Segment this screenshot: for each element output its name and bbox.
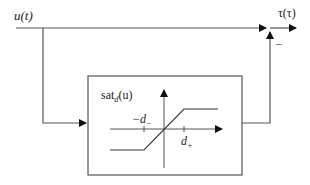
output-label: τ(τ) (278, 7, 296, 19)
block-title-main: sat (101, 88, 114, 102)
neg-threshold-text: −d (132, 112, 146, 126)
branch-line (43, 28, 86, 123)
block-diagram (0, 0, 310, 185)
block-title: satd(u) (101, 89, 133, 105)
sum-sign: – (276, 38, 282, 49)
pos-threshold-sub: + (187, 141, 193, 150)
neg-threshold-label: −d− (132, 113, 152, 129)
feedback-line (242, 32, 270, 123)
input-label: u(t) (14, 9, 33, 22)
neg-threshold-sub: − (146, 119, 152, 128)
pos-threshold-label: d+ (181, 135, 193, 151)
block-title-arg: (u) (119, 88, 133, 102)
